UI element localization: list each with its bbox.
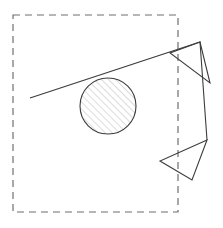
figure-svg bbox=[0, 0, 223, 228]
diagram-canvas bbox=[0, 0, 223, 228]
